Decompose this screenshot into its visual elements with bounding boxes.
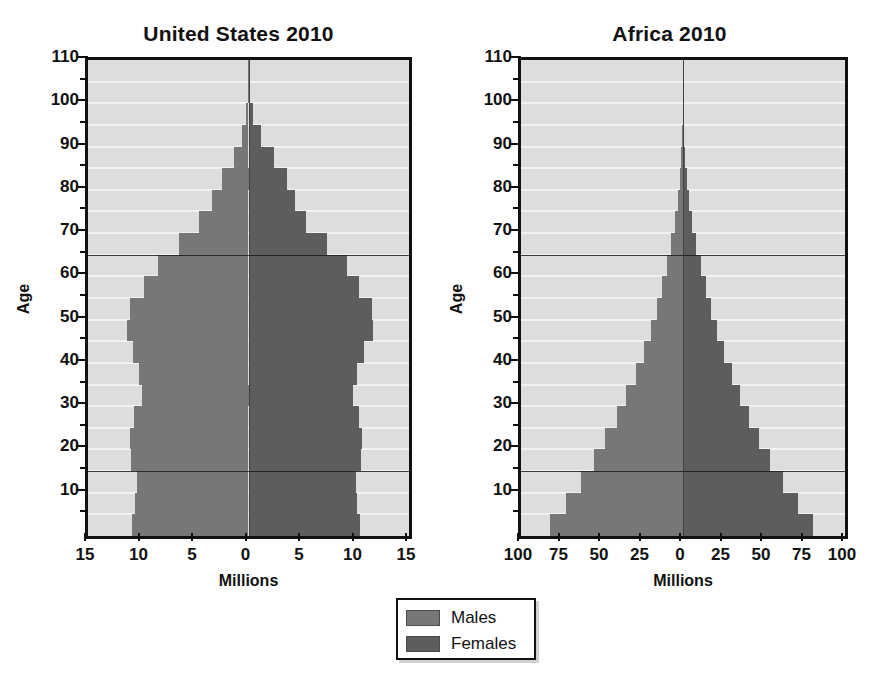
chart-title-united-states: United States 2010 <box>0 22 437 46</box>
bar-males-70-74 <box>675 211 683 233</box>
bar-females-45-49 <box>683 320 717 342</box>
center-axis-line <box>249 60 250 536</box>
bar-females-70-74 <box>249 211 307 233</box>
bar-males-70-74 <box>199 211 248 233</box>
bar-females-55-59 <box>683 276 706 298</box>
bar-females-80-84 <box>249 168 288 190</box>
legend-swatch-males-icon <box>406 610 440 626</box>
bar-males-85-89 <box>234 147 249 169</box>
bar-males-10-14 <box>137 471 248 493</box>
bar-females-35-39 <box>249 363 357 385</box>
x-tick-mark-5 <box>720 533 722 541</box>
bar-males-75-79 <box>212 190 248 212</box>
bar-females-25-29 <box>683 406 749 428</box>
bar-males-25-29 <box>134 406 248 428</box>
y-tick-label-100: 100 <box>484 90 512 110</box>
bar-females-65-69 <box>249 233 327 255</box>
x-tick-mark-4 <box>298 533 300 541</box>
x-tick-label-7: 75 <box>792 545 811 565</box>
x-tick-label-0: 15 <box>76 545 95 565</box>
x-tick-label-0: 100 <box>504 545 532 565</box>
y-tick-label-100: 100 <box>51 90 79 110</box>
bar-males-80-84 <box>222 168 249 190</box>
x-tick-label-6: 15 <box>397 545 416 565</box>
x-tick-label-2: 5 <box>187 545 196 565</box>
bar-males-15-19 <box>594 449 683 471</box>
plot-area-africa <box>518 57 848 539</box>
bar-females-65-69 <box>683 233 696 255</box>
x-tick-label-4: 0 <box>675 545 684 565</box>
bar-males-20-24 <box>130 428 249 450</box>
x-tick-label-6: 50 <box>752 545 771 565</box>
x-tick-label-5: 25 <box>711 545 730 565</box>
x-tick-mark-2 <box>598 533 600 541</box>
x-tick-mark-5 <box>352 533 354 541</box>
legend-item-males: Males <box>406 605 526 631</box>
x-tick-label-5: 10 <box>343 545 362 565</box>
chart-panel-united-states: United States 2010 Age 11010090807060504… <box>0 0 437 685</box>
legend-item-females: Females <box>406 631 526 657</box>
bar-females-25-29 <box>249 406 359 428</box>
bar-males-5-9 <box>135 493 248 515</box>
x-tick-mark-7 <box>801 533 803 541</box>
bar-females-70-74 <box>683 211 692 233</box>
bar-females-40-44 <box>683 341 724 363</box>
x-tick-mark-0 <box>517 533 519 541</box>
bar-females-60-64 <box>683 255 701 277</box>
y-axis-united-states: 110100908070605040302010 <box>30 57 85 539</box>
bar-males-65-69 <box>671 233 683 255</box>
x-tick-label-2: 50 <box>590 545 609 565</box>
bar-males-65-69 <box>179 233 249 255</box>
x-tick-mark-3 <box>639 533 641 541</box>
bars-united-states <box>88 60 409 536</box>
bar-males-0-4 <box>550 514 683 536</box>
bar-males-60-64 <box>667 255 683 277</box>
bar-males-35-39 <box>636 363 683 385</box>
bar-males-50-54 <box>130 298 249 320</box>
center-axis-line <box>683 60 684 536</box>
bar-males-55-59 <box>144 276 249 298</box>
bar-females-20-24 <box>683 428 759 450</box>
bar-females-5-9 <box>249 493 357 515</box>
y-axis-africa: 110100908070605040302010 <box>463 57 518 539</box>
bar-males-60-64 <box>158 255 249 277</box>
x-tick-mark-2 <box>191 533 193 541</box>
legend-label-females: Females <box>451 634 516 654</box>
chart-panel-africa: Africa 2010 Age 110100908070605040302010… <box>437 0 874 685</box>
bar-males-45-49 <box>127 320 249 342</box>
bar-males-25-29 <box>617 406 683 428</box>
x-tick-label-3: 25 <box>630 545 649 565</box>
bar-males-5-9 <box>566 493 683 515</box>
y-tick-label-110: 110 <box>485 47 512 67</box>
bar-females-55-59 <box>249 276 359 298</box>
x-tick-mark-1 <box>138 533 140 541</box>
bar-males-45-49 <box>651 320 683 342</box>
x-tick-label-3: 0 <box>241 545 250 565</box>
bars-africa <box>521 60 845 536</box>
bar-females-10-14 <box>683 471 783 493</box>
bar-males-20-24 <box>605 428 683 450</box>
bar-females-10-14 <box>249 471 356 493</box>
plot-area-united-states <box>85 57 412 539</box>
x-axis-title-united-states: Millions <box>85 572 412 590</box>
legend-label-males: Males <box>451 608 496 628</box>
bar-females-15-19 <box>249 449 361 471</box>
bar-males-55-59 <box>662 276 683 298</box>
legend: Males Females <box>396 598 536 660</box>
population-pyramid-figure: United States 2010 Age 11010090807060504… <box>0 0 874 685</box>
bar-females-20-24 <box>249 428 362 450</box>
bar-males-40-44 <box>133 341 249 363</box>
bar-females-30-34 <box>249 385 354 407</box>
x-tick-label-4: 5 <box>294 545 303 565</box>
x-tick-label-8: 100 <box>828 545 856 565</box>
bar-females-60-64 <box>249 255 347 277</box>
y-tick-label-110: 110 <box>52 47 79 67</box>
bar-females-90-94 <box>249 125 262 147</box>
bar-females-75-79 <box>249 190 295 212</box>
x-tick-mark-3 <box>245 533 247 541</box>
x-tick-label-1: 10 <box>129 545 148 565</box>
bar-males-15-19 <box>131 449 249 471</box>
bar-males-35-39 <box>139 363 248 385</box>
x-tick-mark-6 <box>760 533 762 541</box>
bar-females-15-19 <box>683 449 770 471</box>
